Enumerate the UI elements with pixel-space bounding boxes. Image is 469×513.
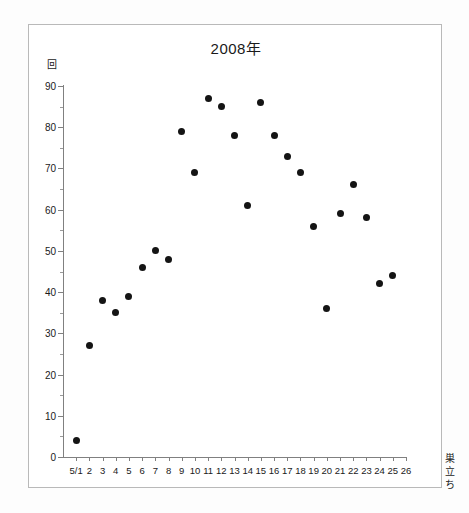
y-axis-minor-tick bbox=[60, 272, 63, 273]
x-axis-tick bbox=[327, 457, 328, 461]
x-axis-tick-label: 19 bbox=[308, 465, 319, 476]
y-axis-tick-label: 40 bbox=[45, 287, 56, 298]
x-axis-tick bbox=[274, 457, 275, 461]
y-axis-tick bbox=[58, 292, 63, 293]
x-axis-tick bbox=[314, 457, 315, 461]
data-point bbox=[231, 132, 238, 139]
x-axis-tick bbox=[76, 457, 77, 461]
x-axis-tick-label: 14 bbox=[242, 465, 253, 476]
x-axis-tick-label: 17 bbox=[282, 465, 293, 476]
x-axis-tick bbox=[235, 457, 236, 461]
x-axis-tick bbox=[340, 457, 341, 461]
x-axis-tick bbox=[221, 457, 222, 461]
annotation-char: 巣 bbox=[441, 453, 459, 466]
y-axis-minor-tick bbox=[60, 313, 63, 314]
x-axis-tick-label: 11 bbox=[203, 465, 213, 476]
data-point bbox=[125, 293, 132, 300]
x-axis-tick bbox=[406, 457, 407, 461]
scatter-plot-area: 0102030405060708090 5/123456789101112131… bbox=[63, 86, 406, 457]
y-axis-minor-tick bbox=[60, 354, 63, 355]
y-axis-tick bbox=[58, 375, 63, 376]
data-point bbox=[350, 181, 357, 188]
y-axis-tick bbox=[58, 210, 63, 211]
x-axis-tick bbox=[261, 457, 262, 461]
x-axis-tick-label: 24 bbox=[374, 465, 385, 476]
y-axis-tick-label: 60 bbox=[45, 204, 56, 215]
data-point bbox=[376, 280, 383, 287]
x-axis-tick-label: 21 bbox=[335, 465, 346, 476]
y-axis-unit-label: 回 bbox=[47, 56, 57, 71]
x-axis-tick bbox=[287, 457, 288, 461]
data-point bbox=[205, 95, 212, 102]
y-axis-tick bbox=[58, 168, 63, 169]
y-axis-tick-label: 50 bbox=[45, 245, 56, 256]
y-axis-tick-label: 30 bbox=[45, 328, 56, 339]
x-axis-tick-label: 9 bbox=[179, 465, 184, 476]
x-axis-tick bbox=[103, 457, 104, 461]
x-axis-tick-label: 7 bbox=[153, 465, 158, 476]
data-point bbox=[99, 297, 106, 304]
x-axis-tick bbox=[366, 457, 367, 461]
y-axis-tick bbox=[58, 251, 63, 252]
x-axis-tick bbox=[169, 457, 170, 461]
data-point bbox=[389, 272, 396, 279]
data-point bbox=[244, 202, 251, 209]
y-axis-minor-tick bbox=[60, 395, 63, 396]
x-axis-tick bbox=[248, 457, 249, 461]
annotation-char: ち bbox=[441, 479, 459, 492]
x-axis-tick-label: 23 bbox=[361, 465, 372, 476]
data-point bbox=[257, 99, 264, 106]
x-axis-tick-label: 25 bbox=[388, 465, 399, 476]
x-axis-tick bbox=[353, 457, 354, 461]
x-axis-tick-label: 15 bbox=[256, 465, 267, 476]
x-axis-tick-label: 18 bbox=[295, 465, 306, 476]
scanned-page: 2008年 回 0102030405060708090 5/1234567891… bbox=[0, 0, 469, 513]
y-axis-minor-tick bbox=[60, 107, 63, 108]
y-axis-tick-label: 80 bbox=[45, 122, 56, 133]
x-axis-tick-label: 12 bbox=[216, 465, 227, 476]
x-axis-tick-label: 10 bbox=[190, 465, 201, 476]
y-axis-tick bbox=[58, 416, 63, 417]
data-point bbox=[73, 437, 80, 444]
x-axis-tick-label: 22 bbox=[348, 465, 359, 476]
x-axis-tick bbox=[182, 457, 183, 461]
x-axis-tick-label: 13 bbox=[229, 465, 240, 476]
y-axis-minor-tick bbox=[60, 189, 63, 190]
x-axis-tick-label: 8 bbox=[166, 465, 171, 476]
y-axis-minor-tick bbox=[60, 436, 63, 437]
data-point bbox=[139, 264, 146, 271]
data-point bbox=[271, 132, 278, 139]
data-point bbox=[178, 128, 185, 135]
x-axis-tick bbox=[393, 457, 394, 461]
x-axis-tick bbox=[195, 457, 196, 461]
x-axis-tick bbox=[380, 457, 381, 461]
data-point bbox=[112, 309, 119, 316]
x-axis-tick-label: 16 bbox=[269, 465, 280, 476]
data-point bbox=[218, 103, 225, 110]
data-point bbox=[337, 210, 344, 217]
x-axis-tick bbox=[116, 457, 117, 461]
data-point bbox=[165, 256, 172, 263]
data-point bbox=[310, 223, 317, 230]
data-point bbox=[284, 153, 291, 160]
y-axis-tick-label: 10 bbox=[45, 410, 56, 421]
y-axis-tick-label: 70 bbox=[45, 163, 56, 174]
y-axis-tick bbox=[58, 333, 63, 334]
y-axis-line bbox=[63, 85, 64, 458]
chart-title: 2008年 bbox=[29, 37, 443, 58]
fledging-annotation: 巣立ち bbox=[441, 453, 459, 491]
data-point bbox=[152, 247, 159, 254]
x-axis-tick-label: 4 bbox=[113, 465, 118, 476]
x-axis-tick-label: 26 bbox=[401, 465, 412, 476]
x-axis-tick bbox=[142, 457, 143, 461]
y-axis-tick-label: 20 bbox=[45, 369, 56, 380]
x-axis-tick-label: 3 bbox=[100, 465, 105, 476]
data-point bbox=[86, 342, 93, 349]
x-axis-tick bbox=[89, 457, 90, 461]
x-axis-tick-label: 5 bbox=[126, 465, 131, 476]
x-axis-tick bbox=[155, 457, 156, 461]
y-axis-minor-tick bbox=[60, 230, 63, 231]
figure-frame: 2008年 回 0102030405060708090 5/1234567891… bbox=[28, 24, 442, 488]
x-axis-tick bbox=[129, 457, 130, 461]
x-axis-tick-label: 20 bbox=[322, 465, 333, 476]
